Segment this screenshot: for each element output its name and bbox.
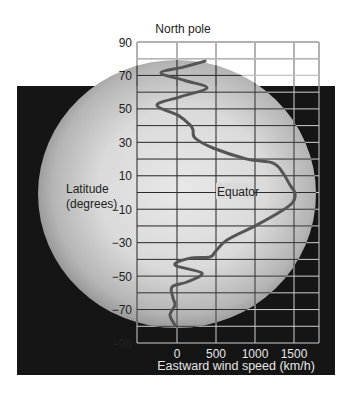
chart-canvas: North pole9070503010−10−30−50−70−9005001… bbox=[0, 0, 345, 396]
wind-speed-chart: North pole9070503010−10−30−50−70−9005001… bbox=[0, 0, 345, 396]
x-axis-title: Eastward wind speed (km/h) bbox=[157, 359, 315, 373]
equator-label: Equator bbox=[217, 185, 259, 199]
y-tick-label: 70 bbox=[119, 69, 133, 83]
y-tick-label: 50 bbox=[119, 102, 133, 116]
y-axis-title-line2: (degrees) bbox=[66, 197, 117, 211]
y-axis-title-line1: Latitude bbox=[66, 182, 109, 196]
y-tick-label: 30 bbox=[119, 136, 133, 150]
y-tick-label: −50 bbox=[112, 270, 133, 284]
y-tick-label: −90 bbox=[112, 337, 133, 351]
y-tick-label: 10 bbox=[119, 169, 133, 183]
y-tick-label: −30 bbox=[112, 236, 133, 250]
north-pole-label: North pole bbox=[155, 22, 211, 36]
y-tick-label: −70 bbox=[112, 303, 133, 317]
y-tick-label: 90 bbox=[119, 36, 133, 50]
